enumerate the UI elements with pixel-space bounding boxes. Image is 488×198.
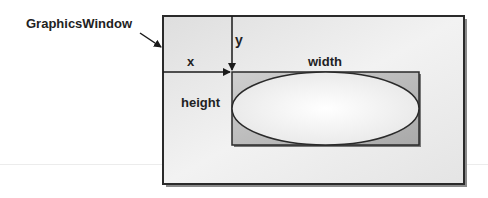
- graphics-window-label: GraphicsWindow: [26, 16, 132, 31]
- window-pointer-arrow: [140, 33, 161, 47]
- ellipse-shape: [232, 72, 419, 145]
- height-label: height: [181, 95, 220, 110]
- y-label: y: [235, 32, 243, 48]
- width-label: width: [308, 54, 342, 69]
- x-label: x: [187, 54, 194, 69]
